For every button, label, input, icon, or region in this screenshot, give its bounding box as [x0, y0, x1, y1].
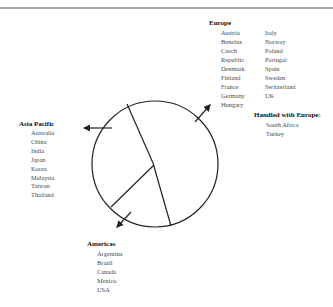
- pie-circle: [92, 101, 218, 227]
- asia-country: Japan: [31, 156, 46, 163]
- asia-country: Korea: [31, 165, 47, 172]
- americas-country: USA: [97, 286, 110, 293]
- europe-country: Republic: [221, 56, 244, 63]
- europe-country: Germany: [221, 92, 245, 99]
- handled-country: Turkey: [266, 130, 284, 137]
- asia-pacific-heading: Asia Pacific: [19, 120, 54, 128]
- asia-country: China: [31, 138, 46, 145]
- europe-country: Sweden: [265, 74, 285, 81]
- europe-country: Czech: [221, 47, 237, 54]
- asia-country: India: [31, 147, 44, 154]
- europe-country: Spain: [265, 65, 280, 72]
- europe-heading: Europe: [209, 19, 231, 27]
- divider-europe-americas: [153, 163, 171, 226]
- europe-country: Benelux: [221, 38, 242, 45]
- europe-country: Switzerland: [265, 83, 296, 90]
- asia-country: Taiwan: [31, 182, 50, 189]
- divider-americas-asia: [111, 165, 154, 207]
- europe-country: Poland: [265, 47, 283, 54]
- americas-country: Argentina: [97, 250, 122, 257]
- asia-country: Malaysia: [31, 174, 54, 181]
- europe-country: Denmark: [221, 65, 245, 72]
- europe-country: UK: [265, 92, 274, 99]
- europe-country: Portugal: [265, 56, 287, 63]
- americas-country: Canada: [97, 268, 116, 275]
- handled-country: South Africa: [266, 121, 298, 128]
- europe-country: Austria: [221, 29, 240, 36]
- arrow-europe-icon: [195, 105, 210, 122]
- europe-country: Hungary: [221, 101, 243, 108]
- arrow-americas-icon: [117, 212, 131, 227]
- americas-heading: Americas: [87, 240, 115, 248]
- americas-country: Brazil: [97, 259, 113, 266]
- europe-country: France: [221, 83, 238, 90]
- region-pie-diagram: [0, 0, 333, 307]
- asia-country: Australia: [31, 129, 54, 136]
- europe-country: Norway: [265, 38, 286, 45]
- europe-country: Finland: [221, 74, 241, 81]
- asia-country: Thailand: [31, 191, 54, 198]
- handled-with-europe-heading: Handled with Europe:: [254, 111, 321, 119]
- divider-asia-europe: [127, 104, 153, 163]
- europe-country: Italy: [265, 29, 277, 36]
- americas-country: Mexico: [97, 277, 117, 284]
